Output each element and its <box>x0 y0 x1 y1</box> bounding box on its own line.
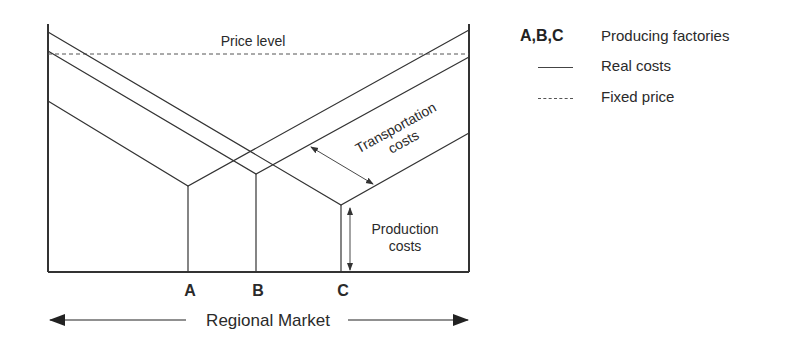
factory-label-a: A <box>184 282 196 299</box>
cost-curve-a <box>48 30 469 186</box>
dashed-line-icon <box>538 98 573 99</box>
solid-line-icon <box>538 67 573 68</box>
regional-market-label: Regional Market <box>206 311 330 330</box>
legend-label-real-costs: Real costs <box>601 57 671 74</box>
production-label-2: costs <box>389 238 422 254</box>
factory-label-b: B <box>252 282 264 299</box>
factory-label-c: C <box>337 282 349 299</box>
price-level-label: Price level <box>221 33 286 49</box>
legend-label-factories: Producing factories <box>601 27 729 44</box>
production-label: Production <box>372 221 439 237</box>
legend-key-abc: A,B,C <box>520 27 580 45</box>
legend-label-fixed-price: Fixed price <box>601 88 674 105</box>
spatial-cost-diagram: Price level Transportation costs Product… <box>0 0 805 344</box>
